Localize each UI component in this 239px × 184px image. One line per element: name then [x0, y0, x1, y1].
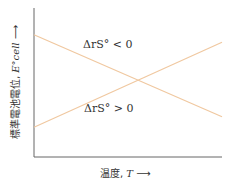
- y-axis-label-text: 標準電池電位,: [10, 73, 21, 139]
- label-positive-entropy: ΔrS° > 0: [84, 102, 133, 115]
- x-axis-label: 温度, T ⟶: [100, 165, 151, 180]
- label-negative-entropy: ΔrS° < 0: [83, 38, 132, 51]
- chart-canvas: [0, 0, 239, 184]
- x-axis-arrow-icon: ⟶: [133, 168, 151, 179]
- x-axis-label-text: 温度,: [100, 168, 126, 179]
- y-axis-arrow-icon: ⟶: [10, 25, 21, 43]
- y-axis-variable: E°cell: [10, 42, 21, 72]
- y-axis-label: 標準電池電位, E°cell ⟶: [4, 22, 24, 142]
